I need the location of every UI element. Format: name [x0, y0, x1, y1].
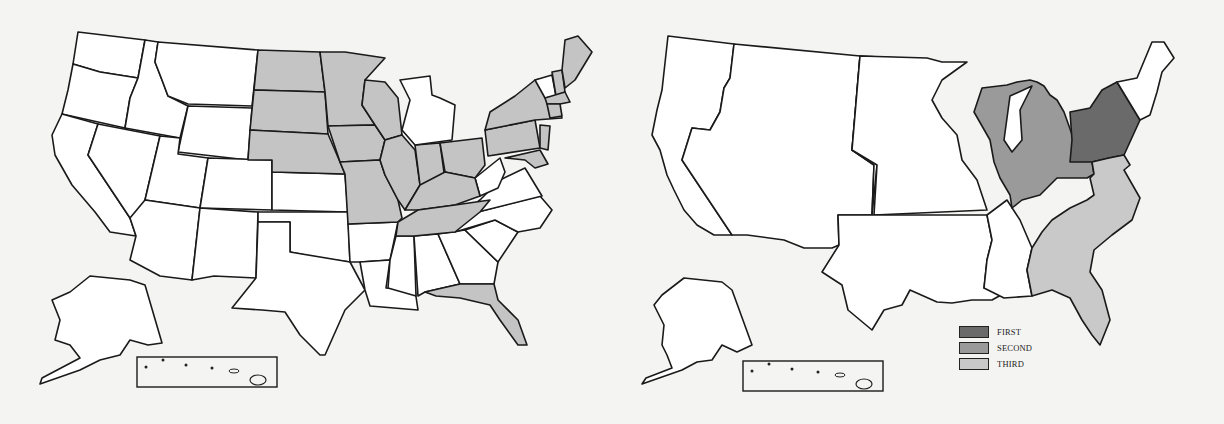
hawaii-inset — [137, 357, 277, 387]
us-map-regions — [612, 0, 1224, 424]
alaska-inset — [642, 278, 752, 384]
state-nj — [540, 125, 550, 150]
hawaii-island-big — [250, 375, 266, 385]
state-me — [562, 36, 592, 88]
state-mi — [400, 76, 455, 145]
map-legend: FIRST SECOND THIRD — [959, 324, 1032, 372]
state-fl — [425, 284, 527, 345]
alaska-inset — [40, 276, 162, 384]
legend-swatch-second — [959, 342, 989, 354]
us-map-states-shaded — [0, 0, 612, 424]
hawaii-island-big — [856, 379, 872, 389]
legend-swatch-third — [959, 358, 989, 370]
state-wy — [178, 106, 252, 160]
hawaii-island — [162, 359, 165, 362]
hawaii-island — [185, 364, 188, 367]
hawaii-island — [835, 373, 845, 377]
region-south-central — [822, 215, 1010, 330]
legend-label: FIRST — [997, 327, 1021, 337]
hawaii-island — [145, 366, 148, 369]
state-nd — [254, 50, 325, 92]
region-deep-south — [984, 200, 1032, 298]
legend-label: SECOND — [997, 343, 1032, 353]
hawaii-island — [751, 370, 754, 373]
legend-label: THIRD — [997, 359, 1024, 369]
hawaii-inset — [743, 361, 883, 391]
state-nm — [192, 208, 258, 280]
state-sd — [250, 90, 328, 134]
state-az — [130, 200, 200, 280]
legend-swatch-first — [959, 326, 989, 338]
legend-item-third: THIRD — [959, 356, 1032, 371]
hawaii-island — [211, 367, 214, 370]
legend-item-second: SECOND — [959, 340, 1032, 355]
state-ks — [272, 172, 348, 212]
legend-item-first: FIRST — [959, 324, 1032, 339]
hawaii-island — [817, 371, 820, 374]
hawaii-island — [768, 363, 771, 366]
state-co — [200, 158, 272, 210]
hawaii-island — [791, 368, 794, 371]
state-ct — [547, 104, 562, 118]
state-mt — [155, 42, 258, 106]
hawaii-island — [229, 369, 239, 373]
